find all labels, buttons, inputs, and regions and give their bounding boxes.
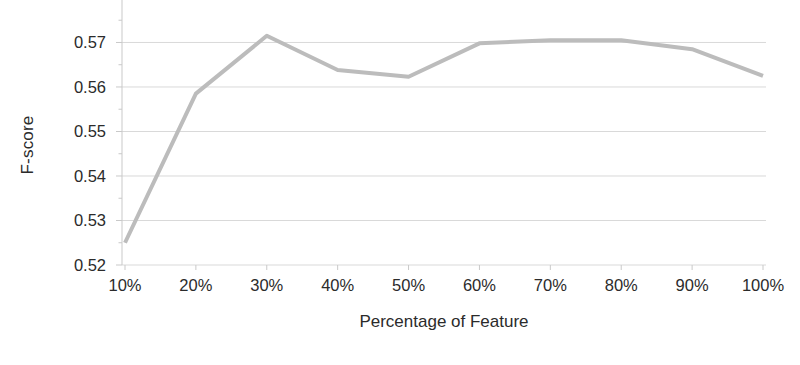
x-axis-tick-labels: 10%20%30%40%50%60%70%80%90%100%	[122, 276, 766, 306]
y-axis-tick-label: 0.57	[74, 33, 106, 52]
y-axis-tick-labels: 0.520.530.540.550.560.57	[52, 0, 114, 290]
data-series	[125, 36, 763, 243]
x-axis-tick-label: 50%	[392, 276, 425, 295]
x-axis-tick-label: 30%	[250, 276, 283, 295]
plot-svg	[122, 18, 766, 265]
y-axis-tick-label: 0.56	[74, 77, 106, 96]
y-axis-title-label: F-score	[18, 115, 38, 174]
x-axis-tick-label: 70%	[534, 276, 567, 295]
y-axis-tick-label: 0.53	[74, 211, 106, 230]
x-axis-tick-label: 40%	[321, 276, 354, 295]
x-axis-title: Percentage of Feature	[122, 312, 766, 332]
x-axis-tick-label: 90%	[676, 276, 709, 295]
series-line-f-score	[125, 36, 763, 243]
plot-area	[122, 18, 766, 265]
x-axis-tick-label: 80%	[605, 276, 638, 295]
x-axis-tick-label: 100%	[742, 276, 784, 295]
f-score-line-chart: F-score 0.520.530.540.550.560.57 10%20%3…	[0, 0, 800, 365]
y-axis-tick-label: 0.52	[74, 256, 106, 275]
y-axis-title: F-score	[8, 0, 48, 290]
y-axis-tick-label: 0.54	[74, 166, 106, 185]
x-axis-tick-label: 10%	[108, 276, 141, 295]
x-axis-tick-label: 60%	[463, 276, 496, 295]
y-axis-tick-label: 0.55	[74, 122, 106, 141]
x-axis-tick-label: 20%	[179, 276, 212, 295]
axis-ticks	[116, 20, 763, 270]
